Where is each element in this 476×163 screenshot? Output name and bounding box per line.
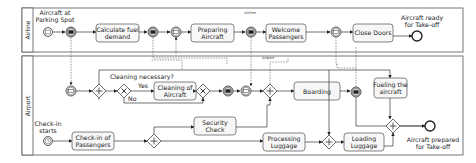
task-label: Luggage [271, 142, 298, 150]
throw-message-event-2[interactable] [148, 27, 158, 37]
end-label: for Take-off [416, 143, 451, 150]
task-preparing-aircraft[interactable]: Preparing Aircraft [191, 24, 234, 42]
task-label: Aircraft [201, 33, 224, 40]
task-label: demand [105, 33, 130, 40]
end-event-aircraft-prepared[interactable] [425, 121, 435, 131]
throw-message-event-airport-3[interactable] [351, 87, 361, 97]
throw-message-event-airport-1[interactable] [223, 86, 233, 96]
pool-label-airline: Airline [24, 20, 31, 39]
task-calculate-fuel-demand[interactable]: Calculate fuel demand [96, 24, 139, 42]
message-filled-icon [226, 89, 231, 92]
throw-message-event-1[interactable] [66, 27, 76, 37]
task-label: Welcome [272, 26, 300, 33]
lane-caption-airport: Airport [262, 56, 275, 60]
task-label: Passengers [76, 141, 111, 149]
bpmn-diagram: Airline Airline Airport Airport Aircraft… [0, 0, 476, 163]
task-label: Check-in of [76, 134, 112, 141]
catch-message-event-1[interactable] [171, 27, 181, 37]
start-label: Aircraft at [40, 9, 71, 16]
task-label: Calculate fuel [96, 26, 139, 33]
catch-message-event-2[interactable] [331, 27, 341, 37]
task-close-doors[interactable]: Close Doors [353, 24, 393, 42]
catch-message-event-airport-start[interactable] [66, 86, 76, 96]
message-filled-icon [151, 30, 156, 33]
task-loading-luggage[interactable]: Loading Luggage [344, 133, 384, 151]
task-label: Passengers [269, 33, 304, 41]
message-filled-icon [69, 30, 74, 33]
message-filled-icon [249, 30, 254, 33]
task-processing-luggage[interactable]: Processing Luggage [263, 133, 305, 151]
task-check-in-of-passengers[interactable]: Check-in of Passengers [72, 132, 114, 150]
no-label: No [128, 95, 137, 102]
task-label: Aircraft [164, 91, 187, 98]
start-event-check-in-starts[interactable] [44, 137, 53, 146]
task-boarding[interactable]: Boarding [294, 82, 340, 100]
start-label: Check-in [35, 120, 62, 127]
task-label: Check [205, 126, 224, 133]
start-label: starts [39, 127, 57, 134]
throw-message-event-3[interactable] [246, 27, 256, 37]
end-event-aircraft-ready[interactable] [412, 31, 422, 41]
task-welcome-passengers[interactable]: Welcome Passengers [266, 24, 306, 42]
task-label: Close Doors [355, 29, 392, 36]
start-label: Parking Spot [36, 16, 76, 24]
task-label: Luggage [351, 142, 378, 150]
task-label: Boarding [303, 88, 331, 96]
message-filled-icon [354, 90, 359, 93]
pool-label-airport: Airport [24, 95, 32, 116]
lane-caption-airline: Airline [244, 11, 256, 15]
end-label: for Take-off [405, 21, 440, 28]
task-label: aircraft [379, 88, 402, 95]
yes-label: Yes [137, 82, 148, 89]
task-security-check[interactable]: Security Check [194, 117, 236, 135]
task-cleaning-of-aircraft[interactable]: Cleaning of Aircraft [154, 82, 196, 100]
gateway-question: Cleaning necessary? [110, 73, 174, 81]
catch-message-event-airport-2[interactable] [241, 86, 251, 96]
pool-airline[interactable]: Airline Airline [22, 8, 463, 52]
task-fueling-the-aircraft[interactable]: Fueling the aircraft [373, 78, 408, 98]
start-event-aircraft-at-parking-spot[interactable] [44, 28, 53, 37]
